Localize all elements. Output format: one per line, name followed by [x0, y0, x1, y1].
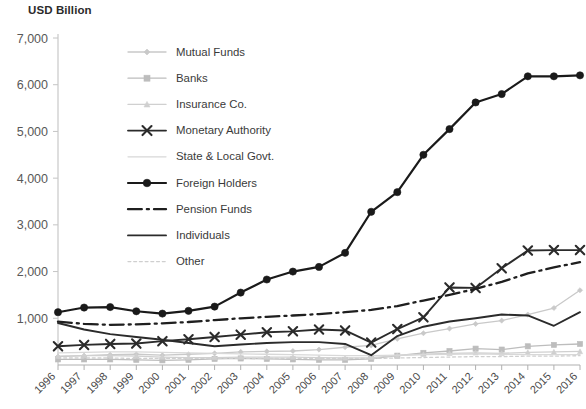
y-axis-tick-label: 1,000: [17, 312, 48, 326]
x-axis-tick-label: 2001: [162, 370, 188, 396]
data-point-marker: [525, 344, 530, 349]
legend-label: Individuals: [176, 229, 230, 241]
x-axis-tick-label: 2002: [188, 370, 214, 396]
x-axis-tick-label: 2000: [136, 370, 162, 396]
data-point-marker: [472, 99, 479, 106]
x-axis-tick-label: 2015: [528, 370, 554, 396]
legend-item-individuals[interactable]: Individuals: [128, 229, 230, 241]
data-point-marker: [54, 309, 61, 316]
data-point-marker: [107, 303, 114, 310]
data-point-marker: [497, 264, 506, 273]
data-point-marker: [81, 304, 88, 311]
y-axis-tick-group: 7,0006,0005,0004,0003,0002,0001,000: [17, 32, 58, 326]
chart-plot-area: 7,0006,0005,0004,0003,0002,0001,000 1996…: [0, 0, 586, 409]
legend-label: State & Local Govt.: [176, 150, 274, 162]
data-point-marker: [185, 307, 192, 314]
data-point-marker: [144, 49, 150, 55]
data-point-marker: [447, 326, 452, 331]
legend-label: Foreign Holders: [176, 177, 257, 189]
data-point-marker: [133, 308, 140, 315]
data-point-marker: [446, 125, 453, 132]
legend-item-pension-funds[interactable]: Pension Funds: [128, 203, 252, 215]
legend-label: Mutual Funds: [176, 46, 245, 58]
chart-container: USD Billion 7,0006,0005,0004,0003,0002,0…: [0, 0, 586, 409]
x-axis-tick-label: 2004: [240, 370, 266, 396]
legend-item-banks[interactable]: Banks: [128, 72, 208, 84]
data-point-marker: [577, 341, 582, 346]
y-axis-tick-label: 3,000: [17, 218, 48, 232]
data-point-marker: [237, 289, 244, 296]
y-axis-tick-label: 4,000: [17, 172, 48, 186]
x-axis-tick-label: 2008: [345, 370, 371, 396]
data-point-marker: [524, 73, 531, 80]
x-axis-tick-label: 2012: [449, 370, 475, 396]
x-axis-tick-label: 2007: [319, 370, 345, 396]
x-axis-tick-group: 1996199719981999200020012002200320042005…: [32, 365, 580, 396]
x-axis-tick-label: 2014: [501, 370, 527, 396]
data-point-marker: [144, 75, 150, 81]
legend-label: Pension Funds: [176, 203, 252, 215]
y-axis-tick-label: 6,000: [17, 78, 48, 92]
data-point-marker: [368, 208, 375, 215]
data-point-marker: [550, 73, 557, 80]
data-point-marker: [263, 276, 270, 283]
data-point-marker: [421, 331, 426, 336]
legend-label: Other: [176, 255, 205, 267]
x-axis-tick-label: 2005: [267, 370, 293, 396]
data-point-marker: [289, 268, 296, 275]
data-point-marker: [342, 249, 349, 256]
data-point-marker: [143, 179, 151, 187]
data-point-marker: [499, 318, 504, 323]
data-point-marker: [419, 313, 428, 322]
x-axis-tick-label: 2016: [554, 370, 580, 396]
data-point-marker: [290, 348, 295, 353]
legend-item-insurance-co[interactable]: Insurance Co.: [128, 98, 247, 110]
x-axis-tick-label: 1998: [84, 370, 110, 396]
data-point-marker: [393, 325, 402, 334]
legend-item-state-local-govt[interactable]: State & Local Govt.: [128, 150, 274, 162]
legend-item-monetary-authority[interactable]: Monetary Authority: [128, 124, 271, 136]
data-point-marker: [211, 303, 218, 310]
data-point-marker: [264, 349, 269, 354]
x-axis-tick-label: 2003: [214, 370, 240, 396]
legend-item-mutual-funds[interactable]: Mutual Funds: [128, 46, 245, 58]
y-axis-tick-label: 2,000: [17, 265, 48, 279]
data-series-group: [54, 72, 585, 363]
data-point-marker: [394, 189, 401, 196]
data-point-marker: [473, 321, 478, 326]
data-point-marker: [551, 342, 556, 347]
series-line: [58, 75, 580, 313]
x-axis-tick-label: 1999: [110, 370, 136, 396]
data-point-marker: [316, 347, 321, 352]
data-point-marker: [315, 263, 322, 270]
data-point-marker: [159, 310, 166, 317]
x-axis-tick-label: 2013: [475, 370, 501, 396]
x-axis-tick-label: 2010: [397, 370, 423, 396]
x-axis-tick-label: 2006: [293, 370, 319, 396]
y-axis-tick-label: 7,000: [17, 32, 48, 46]
chart-legend: Mutual FundsBanksInsurance Co.Monetary A…: [128, 46, 274, 268]
data-point-marker: [498, 90, 505, 97]
legend-item-other[interactable]: Other: [128, 255, 205, 267]
x-axis-tick-label: 2011: [424, 370, 449, 395]
legend-item-foreign-holders[interactable]: Foreign Holders: [128, 177, 257, 189]
data-point-marker: [576, 72, 583, 79]
data-point-marker: [420, 151, 427, 158]
legend-label: Insurance Co.: [176, 98, 247, 110]
legend-label: Monetary Authority: [176, 124, 271, 136]
x-axis-tick-label: 1996: [32, 370, 58, 396]
legend-label: Banks: [176, 72, 208, 84]
x-axis-tick-label: 2009: [371, 370, 397, 396]
y-axis-tick-label: 5,000: [17, 125, 48, 139]
x-axis-tick-label: 1997: [58, 370, 84, 396]
